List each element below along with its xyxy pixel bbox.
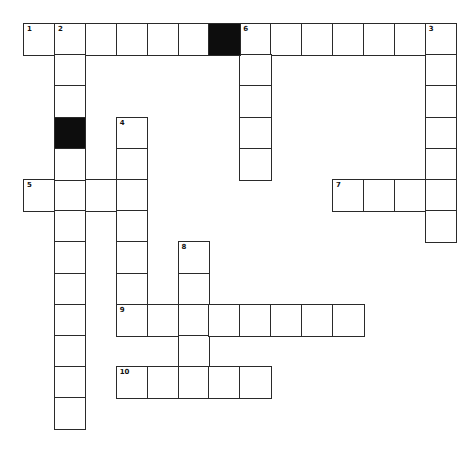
crossword-cell[interactable] — [54, 273, 87, 306]
crossword-cell[interactable] — [425, 54, 458, 87]
clue-number: 9 — [120, 307, 125, 314]
crossword-cell[interactable] — [178, 23, 211, 56]
clue-number: 2 — [58, 26, 63, 33]
crossword-cell[interactable] — [116, 241, 149, 274]
crossword-cell[interactable] — [85, 23, 118, 56]
clue-number: 3 — [429, 26, 434, 33]
crossword-cell[interactable] — [116, 179, 149, 212]
crossword-cell[interactable] — [116, 210, 149, 243]
crossword-cell[interactable] — [178, 304, 211, 337]
block-cell — [54, 117, 87, 150]
crossword-cell[interactable]: 2 — [54, 23, 87, 56]
crossword-cell[interactable] — [363, 179, 396, 212]
crossword-cell[interactable] — [239, 148, 272, 181]
crossword-cell[interactable] — [425, 85, 458, 118]
crossword-cell[interactable] — [208, 366, 241, 399]
crossword-cell[interactable]: 6 — [239, 23, 272, 56]
crossword-cell[interactable] — [54, 241, 87, 274]
crossword-cell[interactable] — [363, 23, 396, 56]
crossword-cell[interactable] — [54, 366, 87, 399]
crossword-cell[interactable] — [394, 23, 427, 56]
clue-number: 8 — [182, 244, 187, 251]
crossword-cell[interactable] — [54, 148, 87, 181]
clue-number: 4 — [120, 120, 125, 127]
clue-number: 6 — [243, 26, 248, 33]
crossword-cell[interactable] — [239, 85, 272, 118]
crossword-cell[interactable] — [54, 85, 87, 118]
crossword-cell[interactable] — [116, 273, 149, 306]
crossword-grid: 12634957810 — [0, 0, 472, 455]
crossword-cell[interactable] — [178, 273, 211, 306]
crossword-cell[interactable] — [270, 304, 303, 337]
crossword-cell[interactable]: 10 — [116, 366, 149, 399]
crossword-cell[interactable] — [116, 23, 149, 56]
crossword-cell[interactable] — [425, 117, 458, 150]
clue-number: 10 — [120, 369, 130, 376]
crossword-cell[interactable] — [301, 304, 334, 337]
crossword-cell[interactable] — [394, 179, 427, 212]
crossword-cell[interactable] — [178, 366, 211, 399]
crossword-cell[interactable] — [301, 23, 334, 56]
crossword-cell[interactable] — [239, 304, 272, 337]
clue-number: 5 — [27, 182, 32, 189]
crossword-cell[interactable] — [147, 23, 180, 56]
crossword-cell[interactable]: 4 — [116, 117, 149, 150]
crossword-cell[interactable] — [54, 397, 87, 430]
crossword-cell[interactable] — [178, 335, 211, 368]
crossword-cell[interactable]: 9 — [116, 304, 149, 337]
crossword-cell[interactable] — [147, 304, 180, 337]
block-cell — [208, 23, 241, 56]
crossword-cell[interactable] — [54, 335, 87, 368]
crossword-cell[interactable] — [239, 366, 272, 399]
crossword-cell[interactable] — [425, 148, 458, 181]
crossword-cell[interactable] — [54, 179, 87, 212]
crossword-cell[interactable] — [270, 23, 303, 56]
crossword-cell[interactable] — [85, 179, 118, 212]
crossword-cell[interactable] — [425, 179, 458, 212]
crossword-cell[interactable]: 7 — [332, 179, 365, 212]
crossword-cell[interactable] — [54, 54, 87, 87]
crossword-cell[interactable] — [239, 117, 272, 150]
crossword-cell[interactable] — [332, 23, 365, 56]
crossword-cell[interactable]: 8 — [178, 241, 211, 274]
crossword-cell[interactable]: 3 — [425, 23, 458, 56]
crossword-cell[interactable] — [208, 304, 241, 337]
crossword-cell[interactable]: 1 — [23, 23, 56, 56]
clue-number: 1 — [27, 26, 32, 33]
crossword-cell[interactable] — [54, 304, 87, 337]
clue-number: 7 — [336, 182, 341, 189]
crossword-cell[interactable] — [147, 366, 180, 399]
crossword-cell[interactable] — [239, 54, 272, 87]
crossword-cell[interactable] — [425, 210, 458, 243]
crossword-cell[interactable] — [54, 210, 87, 243]
crossword-cell[interactable]: 5 — [23, 179, 56, 212]
crossword-cell[interactable] — [116, 148, 149, 181]
crossword-cell[interactable] — [332, 304, 365, 337]
